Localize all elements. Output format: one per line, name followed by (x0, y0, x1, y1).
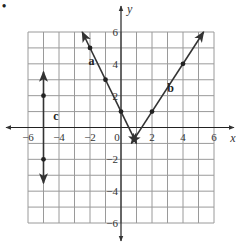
y-tick-label: 4 (113, 58, 119, 70)
point (150, 109, 155, 114)
item-marker: • (2, 0, 6, 13)
lines (41, 32, 204, 183)
x-tick-label: −6 (22, 131, 34, 143)
x-tick-label: 4 (180, 131, 186, 143)
y-tick-label: −6 (106, 217, 118, 229)
y-tick-label: −4 (106, 185, 118, 197)
point (181, 61, 186, 66)
line-label-c: c (53, 109, 59, 123)
point (41, 93, 46, 98)
y-axis-label: y (126, 2, 133, 16)
point (41, 157, 46, 162)
x-tick-label: 6 (211, 131, 217, 143)
x-tick-label: 0 (114, 131, 120, 143)
y-tick-label: 6 (113, 26, 119, 38)
point (88, 46, 93, 51)
x-axis-label: x (229, 131, 236, 145)
x-tick-label: −4 (53, 131, 65, 143)
line-label-b: b (167, 81, 174, 95)
line-label-a: a (89, 54, 95, 68)
y-tick-label: −2 (106, 153, 118, 165)
axes: −6−4−20246642−2−4−6xy (6, 2, 236, 241)
point (103, 77, 108, 82)
x-tick-label: −2 (84, 131, 96, 143)
x-tick-label: 2 (149, 131, 155, 143)
coordinate-plane: −6−4−20246642−2−4−6xy abc • (0, 0, 241, 247)
point (119, 109, 124, 114)
